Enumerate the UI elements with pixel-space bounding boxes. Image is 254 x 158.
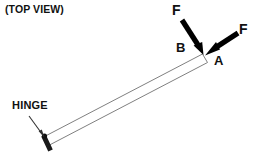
force-right-shaft xyxy=(217,33,239,47)
diagram-canvas: (TOP VIEW) HINGE F F B A xyxy=(0,0,254,158)
bar-body xyxy=(45,54,208,145)
force-label-right: F xyxy=(239,22,248,36)
force-label-left: F xyxy=(172,3,181,17)
hinge-leader-arrow xyxy=(29,116,45,138)
point-a-label: A xyxy=(214,54,223,67)
point-b-label: B xyxy=(176,41,185,54)
hinge-label: HINGE xyxy=(12,100,48,111)
view-label: (TOP VIEW) xyxy=(5,4,64,15)
bar-shape xyxy=(45,54,208,145)
hinge-leader-head xyxy=(39,130,45,138)
diagram-graphics xyxy=(0,0,254,158)
